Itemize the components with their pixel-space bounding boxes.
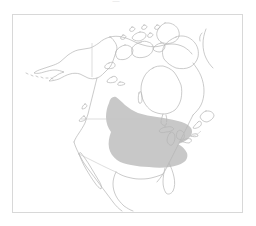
- queen-charlotte-islands: [82, 104, 87, 109]
- arctic-island-victoria: [132, 41, 154, 57]
- canada-west-coast: [74, 78, 97, 142]
- us-mexico-border: [79, 154, 116, 172]
- species-range-layer: [106, 97, 192, 168]
- great-slave-lake: [107, 76, 117, 83]
- lake-athabasca: [118, 82, 125, 85]
- lake-winnipeg: [138, 92, 142, 104]
- baja-california: [79, 153, 101, 189]
- alaska-coastline: [34, 37, 117, 81]
- arctic-island-baffin: [163, 36, 199, 69]
- florida-peninsula: [163, 163, 175, 194]
- great-bear-lake: [105, 62, 115, 69]
- caption-fragment-text: —: [104, 0, 128, 6]
- nova-scotia: [193, 121, 201, 128]
- labrador-coast: [193, 63, 204, 115]
- gulf-coast: [116, 172, 163, 179]
- map-frame: [12, 14, 243, 213]
- aleutian-islands: [26, 73, 53, 79]
- greenland-west-edge: [200, 29, 213, 68]
- figure-container: —: [0, 0, 256, 226]
- newfoundland: [200, 111, 214, 122]
- hudson-bay-coastline: [141, 66, 182, 114]
- species-range-polygon: [106, 97, 192, 168]
- arctic-island-melville: [132, 32, 146, 41]
- canada-arctic-mainland-coast: [110, 36, 192, 54]
- north-america-map: [13, 15, 242, 212]
- arctic-island-banks: [116, 45, 133, 60]
